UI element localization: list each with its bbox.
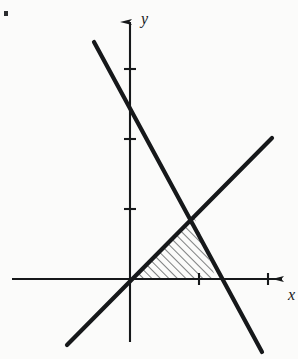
x-axis-label: x [287,286,295,303]
graph-canvas: y x [0,0,298,359]
plotted-lines-group [67,42,272,352]
descending-line [94,42,262,352]
axes-group [12,22,282,342]
y-axis-label: y [139,10,149,28]
print-speck [4,11,8,16]
figure-container: y x [0,0,298,359]
